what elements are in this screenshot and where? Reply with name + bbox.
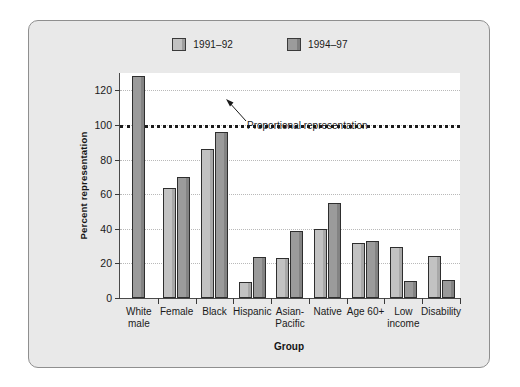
- bar-group: [120, 73, 158, 298]
- bar: [201, 149, 214, 298]
- bar: [253, 257, 266, 298]
- y-tick-label: 80: [100, 154, 112, 166]
- y-axis-title-text: Percent representation: [79, 132, 90, 240]
- legend-item-1991-92: 1991–92: [172, 38, 233, 51]
- x-axis-separator: [347, 298, 348, 304]
- legend-swatch-1991-92: [172, 38, 186, 51]
- bar-group: [422, 73, 460, 298]
- bar: [163, 188, 176, 298]
- x-axis-separator: [422, 298, 423, 304]
- bar-group: [309, 73, 347, 298]
- bar: [442, 280, 455, 298]
- x-axis-separator: [384, 298, 385, 304]
- bar: [352, 243, 365, 298]
- bar: [404, 281, 417, 298]
- y-tick-label: 120: [94, 84, 112, 96]
- x-axis-separator: [271, 298, 272, 304]
- x-axis-separator: [196, 298, 197, 304]
- bar: [132, 76, 145, 298]
- bar-group: [384, 73, 422, 298]
- legend-label-1991-92: 1991–92: [193, 39, 233, 50]
- x-tick-label: Native: [314, 306, 342, 318]
- y-tick-label: 60: [100, 188, 112, 200]
- bar: [314, 229, 327, 298]
- bar-group: [347, 73, 385, 298]
- x-tick-label: Age 60+: [347, 306, 385, 318]
- bar-group: [196, 73, 234, 298]
- x-tick-label: Black: [202, 306, 226, 318]
- bar: [290, 231, 303, 298]
- y-tick-label: 20: [100, 257, 112, 269]
- bar-group: [233, 73, 271, 298]
- plot-area: 020406080100120 White maleFemaleBlackHis…: [119, 73, 460, 299]
- figure-frame: 1991–92 1994–97 Percent representation 0…: [28, 20, 490, 368]
- bar-series-container: [120, 73, 460, 298]
- x-axis-separator: [233, 298, 234, 304]
- bar: [239, 282, 252, 298]
- y-axis-title: Percent representation: [77, 73, 91, 298]
- bar-group: [158, 73, 196, 298]
- y-tick-label: 40: [100, 223, 112, 235]
- x-tick-label: Female: [160, 306, 193, 318]
- bar: [215, 132, 228, 298]
- y-tick: [115, 298, 120, 299]
- x-axis-separator: [309, 298, 310, 304]
- bar: [390, 247, 403, 298]
- x-tick-label: White male: [126, 306, 152, 329]
- bar-group: [271, 73, 309, 298]
- bar: [366, 241, 379, 298]
- x-axis-title: Group: [119, 341, 459, 352]
- bar: [276, 258, 289, 298]
- y-tick-label: 100: [94, 119, 112, 131]
- x-tick-label: Asian- Pacific: [275, 306, 304, 329]
- x-tick-label: Disability: [421, 306, 461, 318]
- chart-legend: 1991–92 1994–97: [29, 35, 491, 53]
- bar: [328, 203, 341, 298]
- x-tick-label: Hispanic: [233, 306, 271, 318]
- bar: [177, 177, 190, 298]
- reference-line-label: Proportional representation: [247, 120, 368, 131]
- bar: [428, 256, 441, 298]
- x-tick-label: Low income: [387, 306, 419, 329]
- x-axis-separator: [158, 298, 159, 304]
- legend-swatch-1994-97: [287, 38, 301, 51]
- legend-label-1994-97: 1994–97: [308, 39, 348, 50]
- legend-item-1994-97: 1994–97: [287, 38, 348, 51]
- x-axis-separator: [460, 298, 461, 304]
- y-tick-label: 0: [106, 292, 112, 304]
